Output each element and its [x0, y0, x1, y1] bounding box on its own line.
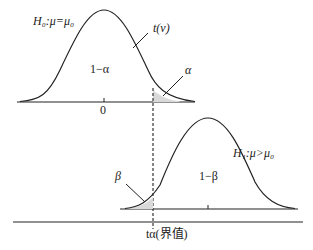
one-minus-alpha-label: 1−α	[90, 63, 109, 75]
one-minus-beta-label: 1−β	[199, 170, 218, 182]
h1-distribution	[120, 118, 298, 209]
zero-tick-label: 0	[100, 104, 106, 116]
t-distribution-label: t(ν)	[153, 22, 170, 34]
h0-label: H₀:μ=μ₀	[33, 15, 74, 27]
alpha-label: α	[185, 64, 191, 76]
h1-label: H₁:μ>μ₀	[233, 147, 274, 159]
critical-value-label: tα(界值)	[146, 228, 188, 240]
hypothesis-test-diagram	[0, 0, 313, 250]
beta-label: β	[115, 170, 121, 182]
